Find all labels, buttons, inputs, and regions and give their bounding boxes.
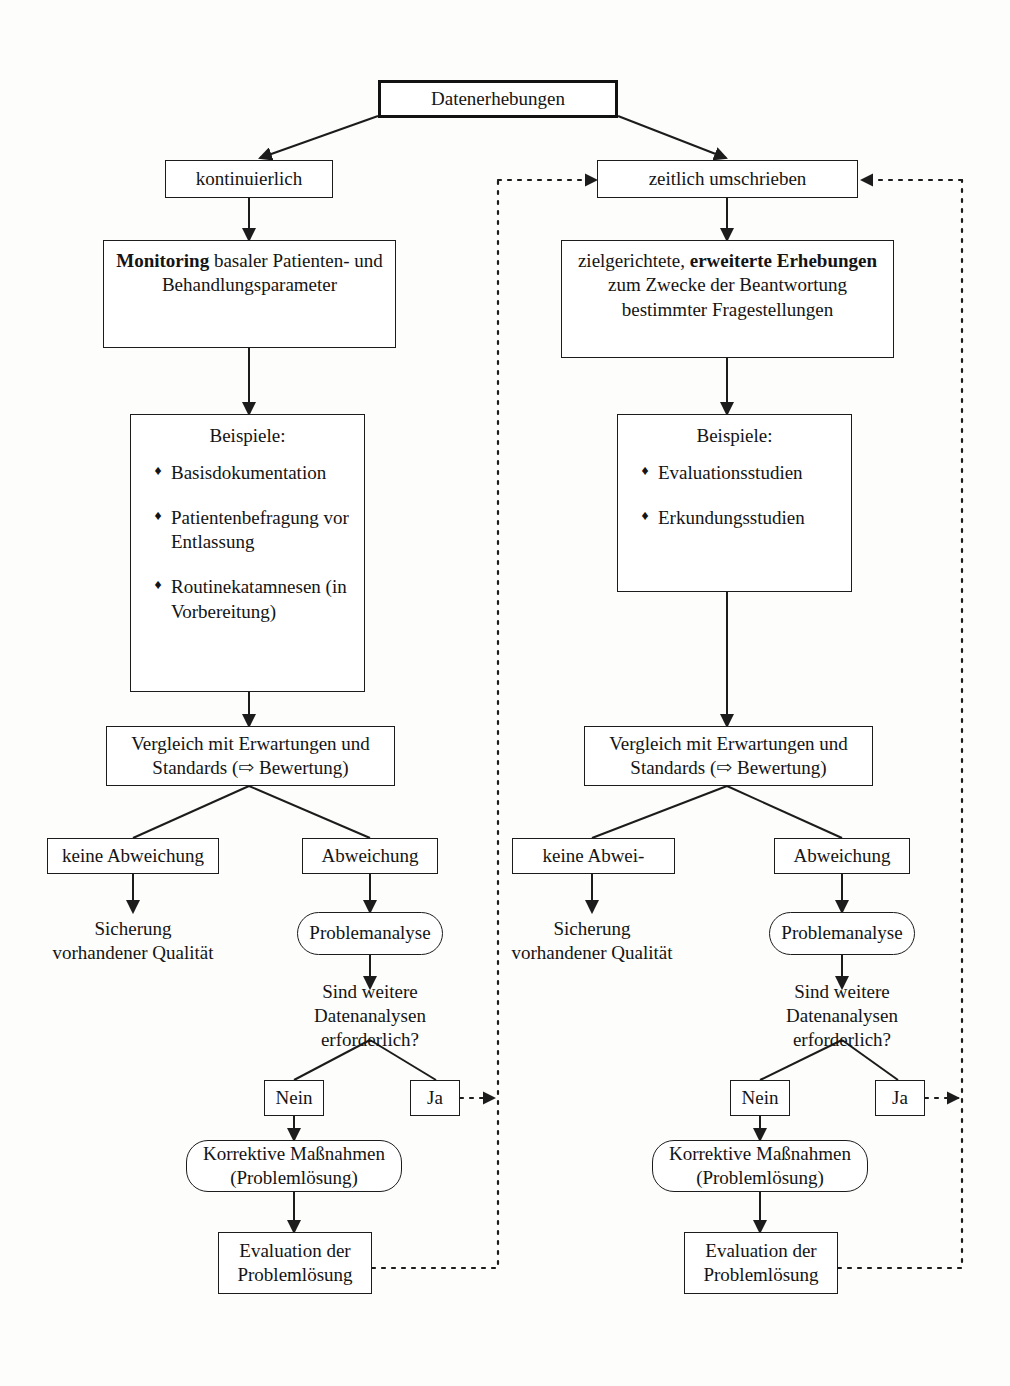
node-korrektive-massnahmen-right[interactable]: Korrektive Maßnahmen (Problemlösung) <box>652 1140 868 1192</box>
node-vergleich-left-label: Vergleich mit Erwartungen und Standards … <box>113 732 388 781</box>
node-nein-left-label: Nein <box>276 1086 313 1110</box>
node-vergleich-right[interactable]: Vergleich mit Erwartungen und Standards … <box>584 726 873 786</box>
node-monitoring-description[interactable]: Monitoring basaler Patienten- und Behand… <box>103 240 396 348</box>
bullet-diamond-icon: ♦ <box>145 506 171 526</box>
erhebungen-post: zum Zwecke der Beantwortung bestimmter F… <box>608 274 847 319</box>
node-korrektive-massnahmen-left[interactable]: Korrektive Maßnahmen (Problemlösung) <box>186 1140 402 1192</box>
node-zeitlich-umschrieben[interactable]: zeitlich umschrieben <box>597 160 858 198</box>
node-ja-left-label: Ja <box>427 1086 443 1110</box>
bullet-diamond-icon: ♦ <box>632 506 658 526</box>
node-sicherung-qualitaet-left-label: Sicherung vorhandener Qualität <box>46 917 220 966</box>
beispiele-left-item-2: Routinekatamnesen (in Vorbereitung) <box>171 575 360 624</box>
node-keine-abweichung-right-label: keine Abwei- <box>543 844 645 868</box>
node-kontinuierlich-label: kontinuierlich <box>196 167 303 191</box>
erhebungen-bold: erweiterte Erhebungen <box>690 250 877 271</box>
node-frage-datenanalysen-right-label: Sind weitere Datenanalysen erforderlich? <box>750 980 934 1053</box>
node-evaluation-problemloesung-left-label: Evaluation der Problemlösung <box>225 1239 365 1288</box>
list-item[interactable]: ♦ Erkundungsstudien <box>622 506 847 531</box>
node-nein-left[interactable]: Nein <box>264 1080 324 1116</box>
node-beispiele-left[interactable]: Beispiele: ♦ Basisdokumentation ♦ Patien… <box>130 414 365 692</box>
node-nein-right[interactable]: Nein <box>730 1080 790 1116</box>
node-erweiterte-erhebungen-text: zielgerichtete, erweiterte Erhebungen zu… <box>568 249 887 322</box>
node-nein-right-label: Nein <box>742 1086 779 1110</box>
node-sicherung-qualitaet-left: Sicherung vorhandener Qualität <box>40 912 226 970</box>
beispiele-right-item-0: Evaluationsstudien <box>658 461 847 486</box>
node-frage-datenanalysen-left-label: Sind weitere Datenanalysen erforderlich? <box>278 980 462 1053</box>
bullet-diamond-icon: ♦ <box>145 575 171 595</box>
node-evaluation-problemloesung-right-label: Evaluation der Problemlösung <box>691 1239 831 1288</box>
node-ja-left[interactable]: Ja <box>410 1080 460 1116</box>
list-item[interactable]: ♦ Evaluationsstudien <box>622 461 847 486</box>
bullet-diamond-icon: ♦ <box>145 461 171 481</box>
node-problemanalyse-right[interactable]: Problemanalyse <box>769 912 915 955</box>
node-abweichung-right[interactable]: Abweichung <box>774 838 910 874</box>
node-keine-abweichung-left-label: keine Abweichung <box>62 844 204 868</box>
node-frage-datenanalysen-left: Sind weitere Datenanalysen erforderlich? <box>272 988 468 1044</box>
node-abweichung-right-label: Abweichung <box>793 844 890 868</box>
beispiele-right-item-1: Erkundungsstudien <box>658 506 847 531</box>
flowchart-canvas: Datenerhebungen kontinuierlich zeitlich … <box>0 0 1010 1386</box>
node-problemanalyse-left[interactable]: Problemanalyse <box>297 912 443 955</box>
node-korrektive-massnahmen-right-label: Korrektive Maßnahmen (Problemlösung) <box>659 1142 861 1191</box>
node-problemanalyse-left-label: Problemanalyse <box>309 921 430 945</box>
node-problemanalyse-right-label: Problemanalyse <box>781 921 902 945</box>
list-item[interactable]: ♦ Patientenbefragung vor Entlassung <box>135 506 360 555</box>
node-datenerhebungen[interactable]: Datenerhebungen <box>378 80 618 118</box>
beispiele-right-title: Beispiele: <box>622 425 847 447</box>
node-zeitlich-umschrieben-label: zeitlich umschrieben <box>649 167 807 191</box>
node-ja-right[interactable]: Ja <box>875 1080 925 1116</box>
node-abweichung-left[interactable]: Abweichung <box>302 838 438 874</box>
node-frage-datenanalysen-right: Sind weitere Datenanalysen erforderlich? <box>744 988 940 1044</box>
erhebungen-pre: zielgerichtete, <box>578 250 690 271</box>
beispiele-left-title: Beispiele: <box>135 425 360 447</box>
node-vergleich-left[interactable]: Vergleich mit Erwartungen und Standards … <box>106 726 395 786</box>
list-item[interactable]: ♦ Basisdokumentation <box>135 461 360 486</box>
node-erweiterte-erhebungen-description[interactable]: zielgerichtete, erweiterte Erhebungen zu… <box>561 240 894 358</box>
bullet-diamond-icon: ♦ <box>632 461 658 481</box>
node-datenerhebungen-label: Datenerhebungen <box>431 87 565 111</box>
node-kontinuierlich[interactable]: kontinuierlich <box>165 160 333 198</box>
node-monitoring-text: Monitoring basaler Patienten- und Behand… <box>110 249 389 298</box>
node-abweichung-left-label: Abweichung <box>321 844 418 868</box>
monitoring-bold-word: Monitoring <box>116 250 209 271</box>
node-keine-abweichung-left[interactable]: keine Abweichung <box>47 838 219 874</box>
node-evaluation-problemloesung-left[interactable]: Evaluation der Problemlösung <box>218 1232 372 1294</box>
node-beispiele-right[interactable]: Beispiele: ♦ Evaluationsstudien ♦ Erkund… <box>617 414 852 592</box>
beispiele-left-item-1: Patientenbefragung vor Entlassung <box>171 506 360 555</box>
node-evaluation-problemloesung-right[interactable]: Evaluation der Problemlösung <box>684 1232 838 1294</box>
node-ja-right-label: Ja <box>892 1086 908 1110</box>
node-vergleich-right-label: Vergleich mit Erwartungen und Standards … <box>591 732 866 781</box>
node-keine-abweichung-right[interactable]: keine Abwei- <box>512 838 675 874</box>
node-korrektive-massnahmen-left-label: Korrektive Maßnahmen (Problemlösung) <box>193 1142 395 1191</box>
node-sicherung-qualitaet-right: Sicherung vorhandener Qualität <box>499 912 685 970</box>
node-sicherung-qualitaet-right-label: Sicherung vorhandener Qualität <box>505 917 679 966</box>
list-item[interactable]: ♦ Routinekatamnesen (in Vorbereitung) <box>135 575 360 624</box>
beispiele-left-item-0: Basisdokumentation <box>171 461 360 486</box>
